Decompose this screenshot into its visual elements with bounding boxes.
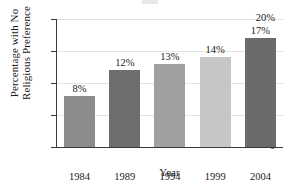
x-axis-title: Year — [56, 166, 283, 178]
y-axis-title: Percentage with No Religious Preference — [5, 0, 35, 118]
bar[interactable] — [154, 64, 185, 147]
bar-value-label: 12% — [102, 57, 147, 68]
bar-value-label: 8% — [57, 83, 102, 94]
y-axis-title-line1: Percentage with No — [8, 9, 20, 98]
bar-value-label: 13% — [147, 51, 192, 62]
bar-group: 12% — [102, 19, 147, 147]
y-axis-tick — [51, 51, 56, 52]
bar-value-label: 14% — [193, 44, 238, 55]
bar-group: 13% — [147, 19, 192, 147]
bar-series: 8%12%13%14%17% — [57, 19, 283, 147]
y-axis-tick — [51, 19, 56, 20]
bar[interactable] — [200, 57, 231, 147]
y-axis-tick — [51, 115, 56, 116]
y-axis-tick — [51, 83, 56, 84]
bar[interactable] — [64, 96, 95, 147]
plot-area: 05%10%15%20% 8%12%13%14%17% 198419891994… — [56, 19, 283, 148]
bar-group: 14% — [193, 19, 238, 147]
cropped-title-artifact — [142, 0, 158, 4]
bar-value-label: 17% — [238, 25, 283, 36]
y-axis-tick — [51, 147, 56, 148]
bar[interactable] — [109, 70, 140, 147]
bar-chart-figure: Percentage with No Religious Preference … — [0, 0, 297, 188]
bar[interactable] — [245, 38, 276, 147]
x-axis-line — [56, 147, 283, 148]
bar-group: 8% — [57, 19, 102, 147]
y-axis-title-line2: Religious Preference — [20, 6, 32, 100]
bar-group: 17% — [238, 19, 283, 147]
